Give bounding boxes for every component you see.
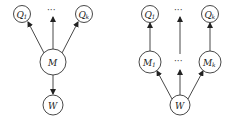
node-w: W <box>170 95 190 115</box>
node-q1: Q 1 <box>14 6 31 23</box>
node-qk: Q k <box>76 6 93 23</box>
svg-text:1: 1 <box>152 13 156 20</box>
edge-w-mk <box>188 71 203 99</box>
svg-text:M: M <box>47 58 58 68</box>
svg-text:k: k <box>212 61 216 68</box>
svg-text:k: k <box>86 13 90 20</box>
edge-m-qk <box>62 22 78 53</box>
node-m1: M 1 <box>139 51 161 73</box>
diagram-canvas: Q 1 ··· Q k M W Q 1 ··· <box>0 0 237 123</box>
edge-w-m1 <box>157 71 172 99</box>
svg-text:1: 1 <box>152 61 156 68</box>
left-diagram: Q 1 ··· Q k M W <box>14 5 93 115</box>
node-w: W <box>43 95 63 115</box>
svg-text:W: W <box>175 101 185 111</box>
svg-text:1: 1 <box>24 13 28 20</box>
edge-m-q1 <box>28 22 44 53</box>
ellipsis-mid: ··· <box>174 56 183 66</box>
node-m: M <box>40 49 66 75</box>
node-qk: Q k <box>202 6 219 23</box>
right-diagram: Q 1 ··· Q k M 1 ··· M k W <box>139 5 221 115</box>
svg-text:W: W <box>48 101 58 111</box>
node-q1: Q 1 <box>142 6 159 23</box>
ellipsis-top: ··· <box>47 5 56 15</box>
ellipsis-top: ··· <box>174 5 183 15</box>
svg-text:k: k <box>212 13 216 20</box>
node-mk: M k <box>199 51 221 73</box>
